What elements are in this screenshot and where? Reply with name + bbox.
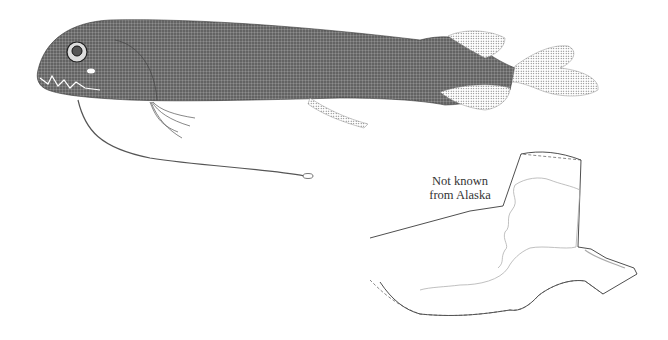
map-label-line1: Not known (412, 174, 508, 188)
map-label-line2: from Alaska (412, 188, 508, 202)
barbel-bulb (303, 174, 313, 179)
pelvic-fin (308, 98, 368, 128)
chin-barbel (78, 100, 305, 176)
map-label: Not known from Alaska (412, 174, 508, 202)
pectoral-filaments (150, 102, 195, 138)
caudal-fin (512, 46, 598, 96)
